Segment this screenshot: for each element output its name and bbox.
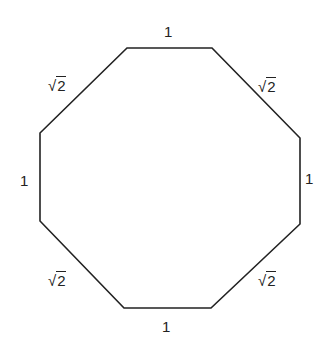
sqrt-symbol: √: [258, 272, 266, 289]
label-bottom-right-side: √2: [258, 273, 276, 288]
label-bottom-left-side: √2: [48, 273, 66, 288]
radicand: 2: [56, 76, 65, 94]
octagon-diagram: 1 1 1 1 √2 √2 √2 √2: [0, 0, 332, 343]
sqrt-symbol: √: [48, 272, 56, 289]
label-bottom-side: 1: [162, 319, 170, 334]
sqrt-symbol: √: [48, 77, 56, 94]
label-top-right-side: √2: [258, 79, 276, 94]
radicand: 2: [266, 271, 275, 289]
label-top-left-side: √2: [48, 78, 66, 93]
label-left-side: 1: [20, 173, 28, 188]
label-right-side: 1: [305, 171, 313, 186]
radicand: 2: [266, 77, 275, 95]
sqrt-symbol: √: [258, 78, 266, 95]
label-top-side: 1: [164, 24, 172, 39]
octagon-shape: [0, 0, 332, 343]
radicand: 2: [56, 271, 65, 289]
